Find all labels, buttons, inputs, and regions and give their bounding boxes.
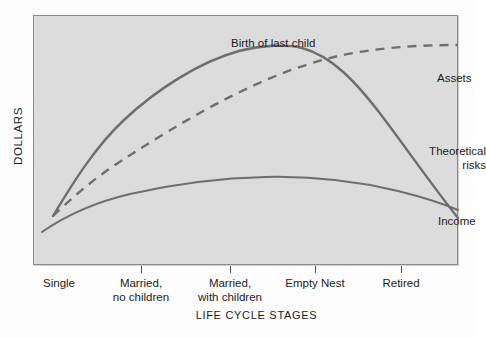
x-label-retired: Retired — [382, 276, 419, 290]
x-label-married-no-children-line2: no children — [113, 290, 169, 304]
series-income-line — [42, 177, 458, 232]
plot-area: Birth of last child Assets Theoretical r… — [33, 15, 458, 265]
x-label-married-with-children-line1: Married, — [198, 276, 262, 290]
x-tick-married-with-children — [230, 266, 231, 273]
x-tick-married-no-children — [141, 266, 142, 273]
x-axis-title: LIFE CYCLE STAGES — [0, 309, 475, 321]
x-label-married-no-children-line1: Married, — [113, 276, 169, 290]
annotation-birth-of-last-child: Birth of last child — [231, 36, 315, 50]
x-label-retired-line1: Retired — [382, 276, 419, 290]
annotation-income: Income — [438, 214, 476, 228]
x-tick-empty-nest — [315, 266, 316, 273]
curves-svg — [34, 16, 459, 266]
series-theoretical-risks-line — [53, 46, 458, 218]
x-label-married-with-children-line2: with children — [198, 290, 262, 304]
annotation-assets: Assets — [437, 71, 472, 85]
x-label-married-no-children: Married, no children — [113, 276, 169, 304]
y-axis-title: DOLLARS — [12, 56, 24, 216]
x-tick-retired — [401, 266, 402, 273]
annotation-theoretical-risks: Theoretical risks — [420, 144, 486, 172]
x-label-married-with-children: Married, with children — [198, 276, 262, 304]
x-label-empty-nest-line1: Empty Nest — [285, 276, 344, 290]
annotation-theoretical-risks-line2: risks — [462, 159, 486, 171]
annotation-theoretical-risks-line1: Theoretical — [429, 145, 486, 157]
x-axis-title-text: LIFE CYCLE STAGES — [196, 309, 318, 321]
x-label-empty-nest: Empty Nest — [285, 276, 344, 290]
x-label-single: Single — [43, 276, 75, 290]
x-label-single-line1: Single — [43, 276, 75, 290]
